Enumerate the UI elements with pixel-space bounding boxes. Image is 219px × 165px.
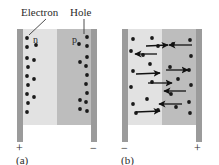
panel-a-n-region-label: n <box>33 34 38 45</box>
panel-a-p-region-label: p <box>72 34 77 45</box>
figure-container: Electron Hole n p + − (a) <box>0 0 219 165</box>
panel-b-right-terminal: + <box>194 141 201 155</box>
hole-label: Hole <box>70 6 92 18</box>
panel-b-caption: (b) <box>121 154 134 165</box>
panel-a-right-terminal: − <box>90 141 97 155</box>
panel-b-left-terminal: − <box>121 141 128 155</box>
panel-b-p-region <box>162 29 196 125</box>
panel-b-right-electrode <box>196 29 202 142</box>
panel-a-caption: (a) <box>16 154 29 165</box>
panel-a-left-electrode <box>17 29 23 142</box>
pn-junction-diagram: Electron Hole n p + − (a) <box>0 0 219 165</box>
panel-a-left-terminal: + <box>16 141 23 155</box>
panel-a-right-electrode <box>91 29 97 142</box>
electron-label: Electron <box>21 6 59 18</box>
panel-b-left-electrode <box>122 29 128 142</box>
